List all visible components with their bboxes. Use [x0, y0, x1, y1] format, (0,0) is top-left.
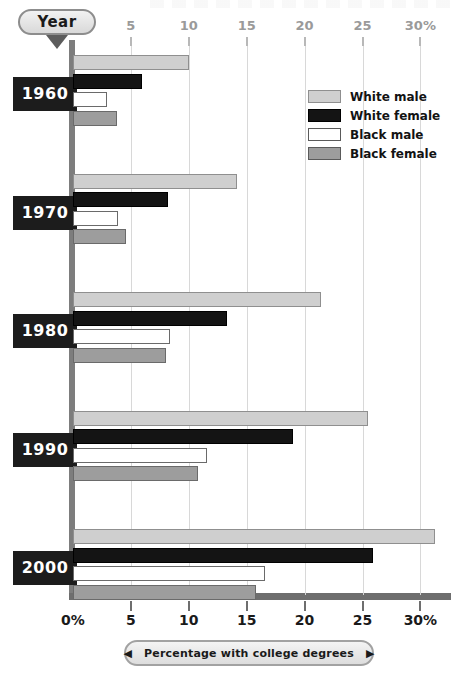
legend-swatch-black-female	[308, 147, 341, 160]
bar-1960-white-male	[73, 55, 189, 70]
year-pointer-triangle-icon	[46, 35, 68, 49]
legend-swatch-black-male	[308, 128, 341, 141]
legend-row-black-male: Black male	[308, 126, 450, 143]
top-tick-label-20: 20	[296, 18, 314, 33]
caption-label: Percentage with college degrees	[144, 647, 354, 660]
cropped-title-strip	[150, 0, 450, 8]
bar-1970-black-male	[73, 211, 118, 226]
legend-swatch-white-female	[308, 109, 341, 122]
top-tick-label-30: 30%	[405, 18, 436, 33]
grouped-bar-chart: Year 51015202530% 0%51015202530% 1960197…	[0, 0, 457, 683]
top-tickmark-25	[362, 37, 364, 46]
top-tickmark-30	[419, 37, 421, 46]
bottom-tick-label-0: 0%	[61, 612, 85, 628]
bottom-tickmark-10	[188, 601, 190, 611]
top-tickmark-20	[304, 37, 306, 46]
bar-1960-white-female	[73, 74, 142, 89]
top-tick-label-5: 5	[126, 18, 135, 33]
bottom-tick-label-5: 5	[126, 612, 136, 628]
top-tickmark-10	[188, 37, 190, 46]
top-tick-label-25: 25	[353, 18, 371, 33]
legend-swatch-white-male	[308, 90, 341, 103]
year-label-1960: 1960	[13, 77, 77, 111]
top-tickmark-15	[246, 37, 248, 46]
bottom-tickmark-20	[304, 601, 306, 611]
top-tick-label-10: 10	[180, 18, 198, 33]
legend-row-black-female: Black female	[308, 145, 450, 162]
legend-row-white-female: White female	[308, 107, 450, 124]
bottom-tickmark-5	[130, 601, 132, 611]
bar-1980-white-male	[73, 292, 321, 307]
bar-1980-black-male	[73, 329, 170, 344]
year-axis-pill: Year	[18, 9, 96, 35]
year-label-1990: 1990	[13, 433, 77, 467]
bar-1970-white-female	[73, 192, 168, 207]
caption-right-arrow-icon: ▶	[366, 648, 374, 659]
year-label-2000: 2000	[13, 551, 77, 585]
bar-1970-white-male	[73, 174, 237, 189]
bottom-tickmark-30	[419, 601, 421, 611]
bottom-tickmark-25	[362, 601, 364, 611]
bar-2000-white-male	[73, 529, 435, 544]
top-tickmark-5	[130, 37, 132, 46]
year-label-1970: 1970	[13, 196, 77, 230]
bottom-tickmark-15	[246, 601, 248, 611]
bar-1990-black-female	[73, 466, 198, 481]
legend-label: Black female	[350, 147, 437, 161]
legend-label: Black male	[350, 128, 423, 142]
legend-row-white-male: White male	[308, 88, 450, 105]
bottom-tick-label-10: 10	[179, 612, 198, 628]
bar-1990-black-male	[73, 448, 207, 463]
bar-1980-white-female	[73, 311, 227, 326]
legend: White maleWhite femaleBlack maleBlack fe…	[308, 88, 450, 164]
year-label-1980: 1980	[13, 314, 77, 348]
gridline-20	[305, 46, 306, 595]
caption-left-arrow-icon: ◀	[124, 648, 132, 659]
bottom-tick-label-30: 30%	[404, 612, 438, 628]
bar-2000-black-female	[73, 585, 256, 600]
bar-1990-white-male	[73, 411, 368, 426]
bottom-tick-label-15: 15	[237, 612, 256, 628]
bar-1960-black-female	[73, 111, 117, 126]
bar-2000-black-male	[73, 566, 265, 581]
legend-label: White female	[350, 109, 440, 123]
bottom-tick-label-25: 25	[353, 612, 372, 628]
bar-1970-black-female	[73, 229, 126, 244]
legend-label: White male	[350, 90, 427, 104]
bottom-tick-label-20: 20	[295, 612, 314, 628]
bar-1990-white-female	[73, 429, 293, 444]
x-axis-caption-pill: ◀ Percentage with college degrees ▶	[124, 640, 374, 666]
bar-1960-black-male	[73, 92, 107, 107]
top-tick-label-15: 15	[238, 18, 256, 33]
bar-1980-black-female	[73, 348, 166, 363]
bar-2000-white-female	[73, 548, 373, 563]
gridline-15	[247, 46, 248, 595]
